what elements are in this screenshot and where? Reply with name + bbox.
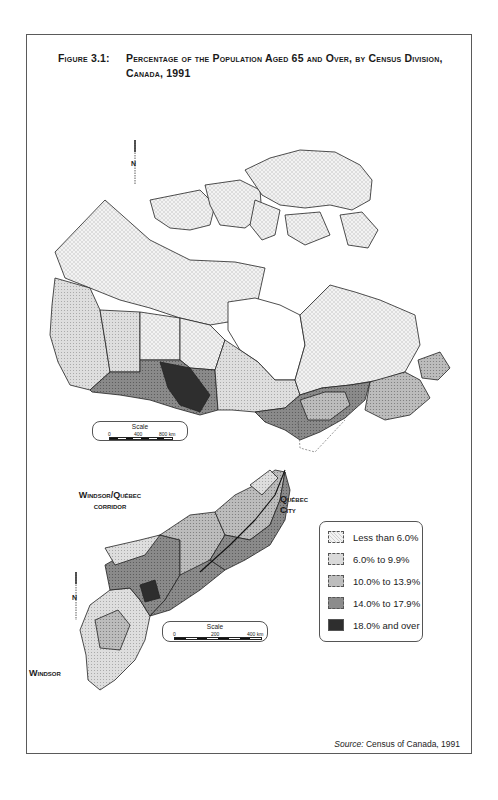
- windsor-label: Windsor: [29, 668, 61, 679]
- source-prefix: Source:: [334, 739, 363, 749]
- legend-swatch-medium: [328, 575, 344, 587]
- source-note: Source: Census of Canada, 1991: [334, 739, 460, 749]
- legend-label: 10.0% to 13.9%: [353, 576, 420, 587]
- quebec-city-line1: Québec: [280, 494, 308, 505]
- legend-swatch-crosshatch: [328, 531, 344, 543]
- legend-swatch-dark: [328, 597, 344, 609]
- north-arrow-upper-label: N: [131, 160, 136, 167]
- corridor-map-title: Windsor/Québec corridor: [60, 490, 160, 512]
- map-graphics: [0, 0, 498, 800]
- legend-label: Less than 6.0%: [353, 532, 419, 543]
- legend: Less than 6.0% 6.0% to 9.9% 10.0% to 13.…: [319, 521, 423, 642]
- scale-title: Scale: [93, 423, 187, 430]
- quebec-city-line2: City: [280, 505, 308, 516]
- canada-map: [50, 150, 450, 452]
- scale-bar-graphic: [174, 637, 262, 640]
- legend-item: 18.0% and over: [328, 618, 420, 632]
- legend-label: 14.0% to 17.9%: [353, 598, 420, 609]
- source-text: Census of Canada, 1991: [366, 739, 460, 749]
- legend-item: 10.0% to 13.9%: [328, 574, 420, 588]
- scale-bar-graphic: [109, 437, 173, 440]
- legend-swatch-light: [328, 553, 344, 565]
- legend-item: 6.0% to 9.9%: [328, 552, 410, 566]
- legend-item: 14.0% to 17.9%: [328, 596, 420, 610]
- quebec-city-label: Québec City: [280, 494, 308, 516]
- scale-bar-canada: Scale 0 400 800 km: [92, 421, 188, 441]
- legend-label: 18.0% and over: [353, 620, 420, 631]
- scale-title: Scale: [163, 623, 267, 630]
- legend-label: 6.0% to 9.9%: [353, 554, 410, 565]
- legend-swatch-black: [328, 619, 344, 631]
- corridor-title-line1: Windsor/Québec: [60, 490, 160, 501]
- scale-bar-corridor: Scale 0 200 400 km: [162, 621, 268, 642]
- corridor-title-line2: corridor: [60, 501, 160, 512]
- north-arrow-lower-label: N: [72, 594, 77, 601]
- legend-item: Less than 6.0%: [328, 530, 419, 544]
